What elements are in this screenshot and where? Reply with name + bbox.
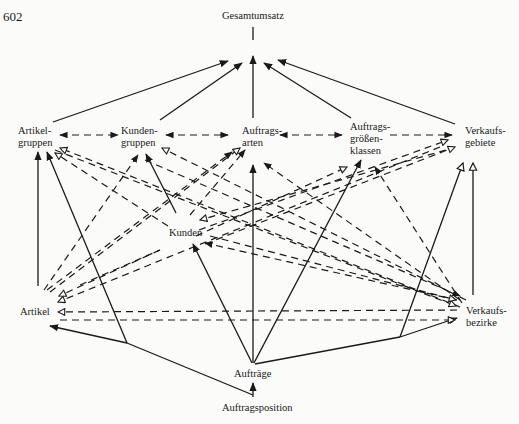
- edge-kunden-auftragsarten: [190, 150, 245, 215]
- edge-verkaufsbezirke-artikelgruppen: [60, 148, 460, 307]
- edge-artikel-kundengruppen: [44, 155, 138, 290]
- node-kundengruppen: Kunden- gruppen: [121, 125, 158, 149]
- dashed-edges: [44, 135, 466, 320]
- node-kunden: Kunden: [169, 227, 202, 239]
- edge-node-artikel: [50, 326, 127, 343]
- node-artikel: Artikel: [20, 306, 50, 318]
- edge-artikel-auftragsarten: [50, 148, 240, 292]
- edge-node-verkaufsgebiete: [400, 163, 463, 337]
- edge-auftraege-kunden: [193, 244, 252, 363]
- edge-node-artikelgruppen: [47, 152, 127, 343]
- edge-verkaufsbezirke-artikel: [58, 310, 457, 312]
- node-artikelgruppen: Artikel- gruppen: [18, 125, 52, 149]
- node-auftragsarten: Auftrags- arten: [242, 125, 282, 149]
- edge-artikelgruppen-verkaufsbezirke: [55, 150, 456, 306]
- node-verkaufsbezirke: Verkaufs- bezirke: [466, 305, 507, 329]
- node-auftragsgroessenklassen: Auftrags- größen- klassen: [350, 121, 390, 157]
- node-auftragsposition: Auftragsposition: [222, 402, 293, 414]
- edge-node-verkaufsbezirke: [400, 318, 457, 337]
- edge-auftraege-node-right: [255, 337, 400, 364]
- dimension-hierarchy-diagram: [0, 0, 519, 424]
- edge-verkaufsbezirke-kundengruppen: [162, 148, 466, 300]
- edge-verkaufsgebiete-artikel: [58, 147, 440, 302]
- edge-kunden-verkaufsbezirke: [210, 236, 456, 300]
- solid-edges: [38, 27, 473, 397]
- edge-kunden-verkaufsgebiete-2: [205, 147, 455, 244]
- edge-verkaufsgebiete-gesamtumsatz: [278, 60, 455, 124]
- node-gesamtumsatz: Gesamtumsatz: [222, 10, 284, 22]
- edge-kundengruppen-gesamtumsatz: [160, 63, 242, 120]
- node-auftraege: Aufträge: [234, 368, 271, 380]
- edge-kunden-groessenklassen: [196, 167, 347, 236]
- node-verkaufsgebiete: Verkaufs- gebiete: [465, 125, 506, 149]
